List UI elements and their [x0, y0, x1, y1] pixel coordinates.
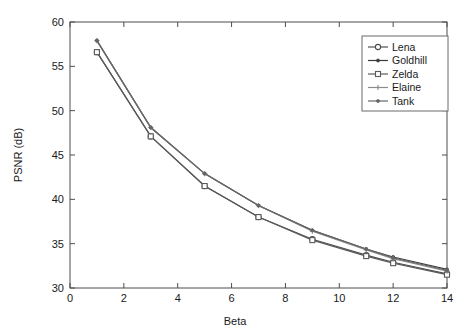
chart-legend[interactable]: LenaGoldhillZeldaElaineTank: [362, 36, 448, 111]
data-point-marker: [149, 126, 152, 129]
data-point-marker: [364, 254, 369, 259]
y-tick-label: 35: [52, 238, 64, 250]
y-tick-label: 60: [52, 16, 64, 28]
legend-label: Goldhill: [392, 54, 427, 66]
data-point-marker: [148, 134, 153, 139]
data-point-marker: [94, 50, 99, 55]
x-tick-label: 0: [67, 292, 73, 304]
x-axis-title: Beta: [224, 315, 248, 327]
data-point-marker: [95, 39, 98, 42]
x-tick-label: 2: [121, 292, 127, 304]
x-tick-label: 4: [175, 292, 181, 304]
legend-label: Tank: [392, 95, 415, 107]
x-tick-label: 14: [441, 292, 453, 304]
data-point-marker: [377, 100, 380, 103]
data-point-marker: [257, 204, 260, 207]
chart-figure: 02468101214 30354045505560 Beta PSNR (dB…: [0, 0, 471, 332]
data-point-marker: [310, 238, 315, 243]
data-point-marker: [391, 261, 396, 266]
data-point-marker: [446, 269, 449, 272]
legend-label: Zelda: [392, 68, 418, 80]
data-point-marker: [311, 229, 314, 232]
x-tick-label: 6: [229, 292, 235, 304]
y-axis-title: PSNR (dB): [12, 128, 24, 182]
x-tick-label: 8: [282, 292, 288, 304]
data-point-marker: [392, 256, 395, 259]
data-point-marker: [202, 184, 207, 189]
y-tick-label: 50: [52, 105, 64, 117]
x-tick-label: 10: [333, 292, 345, 304]
y-tick-label: 55: [52, 60, 64, 72]
data-point-marker: [256, 215, 261, 220]
data-point-marker: [377, 59, 380, 62]
data-point-marker: [375, 44, 380, 49]
y-tick-label: 30: [52, 282, 64, 294]
legend-label: Elaine: [392, 81, 421, 93]
y-tick-label: 45: [52, 149, 64, 161]
legend-label: Lena: [392, 41, 416, 53]
y-tick-label: 40: [52, 193, 64, 205]
psnr-vs-beta-chart: 02468101214 30354045505560 Beta PSNR (dB…: [0, 0, 471, 332]
x-tick-label: 12: [387, 292, 399, 304]
data-point-marker: [376, 72, 381, 77]
data-point-marker: [365, 247, 368, 250]
data-point-marker: [203, 172, 206, 175]
